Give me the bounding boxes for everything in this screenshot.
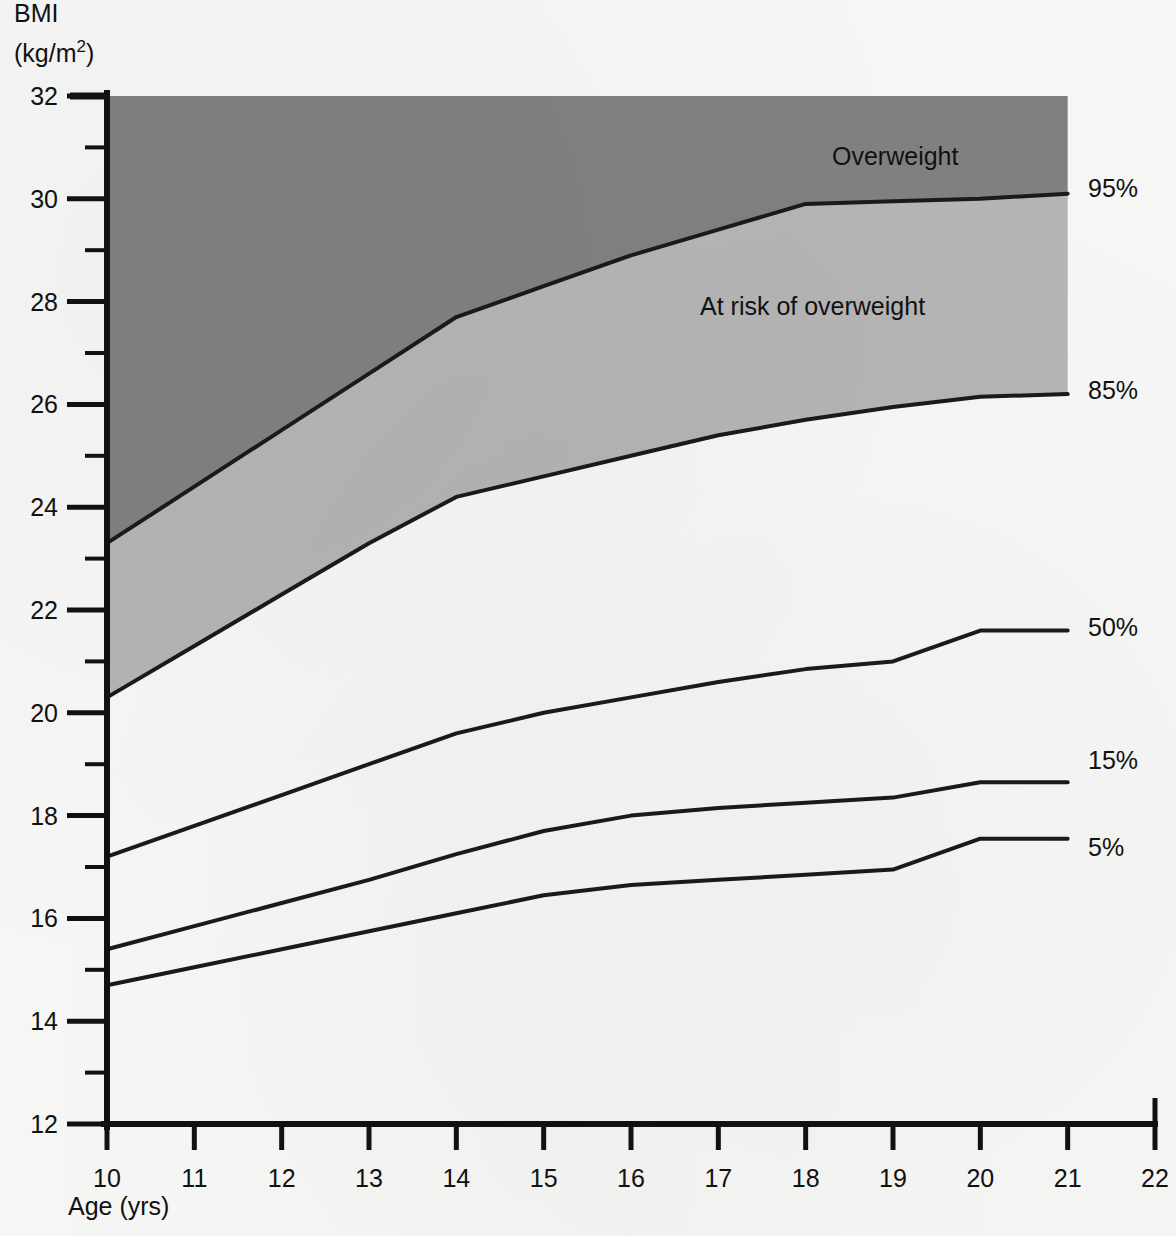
region-label-overweight: Overweight xyxy=(832,142,958,170)
x-tick-label-13: 13 xyxy=(355,1164,383,1192)
y-axis-ticks xyxy=(67,96,107,1124)
x-tick-label-11: 11 xyxy=(181,1164,207,1192)
y-tick-label-18: 18 xyxy=(30,802,58,830)
x-tick-label-20: 20 xyxy=(966,1164,994,1192)
x-tick-label-10: 10 xyxy=(93,1164,121,1192)
y-axis-title-line2: (kg/m2) xyxy=(14,37,94,67)
y-tick-label-26: 26 xyxy=(30,390,58,418)
y-axis-title-units-post: ) xyxy=(86,39,94,67)
x-tick-label-15: 15 xyxy=(530,1164,558,1192)
bmi-percentile-chart: 1214161820222426283032 10111213141516171… xyxy=(0,0,1176,1236)
percentile-label-5pct: 5% xyxy=(1088,833,1124,861)
percentile-label-85pct: 85% xyxy=(1088,376,1138,404)
y-tick-label-20: 20 xyxy=(30,699,58,727)
x-tick-label-17: 17 xyxy=(704,1164,732,1192)
y-tick-label-12: 12 xyxy=(30,1110,58,1138)
y-axis-title-line1: BMI xyxy=(14,0,58,27)
x-tick-label-16: 16 xyxy=(617,1164,645,1192)
y-tick-label-14: 14 xyxy=(30,1007,58,1035)
y-axis-title-units-superscript: 2 xyxy=(77,37,86,56)
x-tick-label-18: 18 xyxy=(792,1164,820,1192)
region-label-at-risk-of-overweight: At risk of overweight xyxy=(700,292,925,320)
y-axis-title-units-pre: (kg/m xyxy=(14,39,77,67)
x-axis-ticks xyxy=(107,1124,1155,1150)
y-tick-label-22: 22 xyxy=(30,596,58,624)
y-tick-label-24: 24 xyxy=(30,493,58,521)
x-tick-label-14: 14 xyxy=(442,1164,470,1192)
y-tick-label-30: 30 xyxy=(30,185,58,213)
x-tick-label-21: 21 xyxy=(1054,1164,1082,1192)
x-axis-tick-labels: 10111213141516171819202122 xyxy=(93,1164,1169,1192)
y-tick-label-28: 28 xyxy=(30,288,58,316)
percentile-label-95pct: 95% xyxy=(1088,174,1138,202)
chart-canvas: 1214161820222426283032 10111213141516171… xyxy=(0,0,1176,1236)
y-tick-label-32: 32 xyxy=(30,82,58,110)
x-tick-label-19: 19 xyxy=(879,1164,907,1192)
percentile-label-15pct: 15% xyxy=(1088,746,1138,774)
shaded-regions xyxy=(107,96,1068,697)
x-tick-label-22: 22 xyxy=(1141,1164,1169,1192)
y-axis-tick-labels: 1214161820222426283032 xyxy=(30,82,58,1138)
y-tick-label-16: 16 xyxy=(30,904,58,932)
x-tick-label-12: 12 xyxy=(268,1164,296,1192)
x-axis-title: Age (yrs) xyxy=(68,1192,169,1220)
percentile-labels: 95%85%50%15%5% xyxy=(1088,174,1138,861)
percentile-label-50pct: 50% xyxy=(1088,613,1138,641)
